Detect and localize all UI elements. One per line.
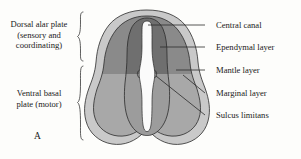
callout-label-mantle-layer: Mantle layer (216, 65, 260, 75)
ventral-basal-plate-label: Ventral basal plate (motor) (2, 88, 76, 109)
callout-label-sulcus-limitans: Sulcus limitans (216, 110, 269, 120)
callout-label-central-canal: Central canal (216, 20, 262, 30)
dorsal-alar-plate-label: Dorsal alar plate (sensory and coordinat… (2, 19, 76, 51)
callout-label-marginal-layer: Marginal layer (216, 88, 267, 98)
panel-letter-label: A (34, 131, 41, 141)
neural-tube-figure: Dorsal alar plate (sensory and coordinat… (0, 0, 301, 159)
ventral-region-brace (78, 66, 84, 140)
callout-label-ependymal-layer: Ependymal layer (216, 42, 274, 52)
dorsal-region-brace (78, 12, 84, 61)
